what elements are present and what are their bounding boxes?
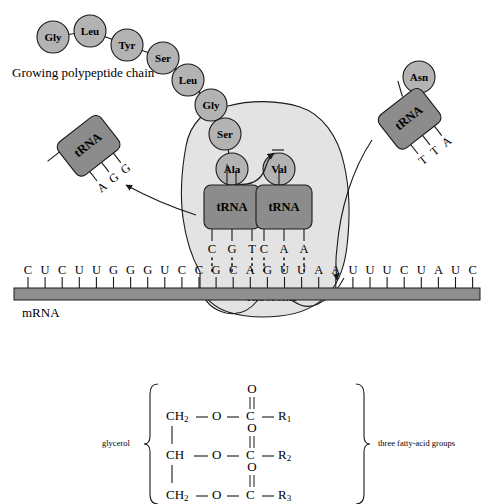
amino-acid-8[interactable]: Ala: [216, 153, 248, 185]
r-group: R1: [278, 408, 291, 424]
amino-acid-3[interactable]: Tyr: [111, 29, 143, 61]
mrna-bar: [14, 288, 480, 300]
mrna-base: U: [417, 263, 426, 277]
backbone-ch2: CH2: [166, 408, 189, 424]
p-site-anticodon-base: G: [227, 242, 236, 256]
a-site-anticodon-base: A: [279, 242, 288, 256]
amino-acid-label: Tyr: [119, 39, 136, 51]
exiting-trna-acceptor-arm: [48, 152, 60, 161]
biology-figure: Ribosome tRNA A G G Asn tRNA: [0, 0, 494, 504]
p-site-trna-label: tRNA: [216, 200, 247, 214]
mrna-base: U: [160, 263, 169, 277]
ester-oxygen: O: [212, 447, 221, 462]
growing-chain-label: Growing polypeptide chain: [12, 65, 155, 80]
mrna-base: A: [331, 263, 340, 277]
exiting-anticodon-base: G: [118, 160, 134, 177]
exiting-trna-group[interactable]: tRNA A G G: [43, 113, 196, 215]
carbonyl-oxygen: O: [247, 459, 256, 474]
carbonyl-oxygen-2: O: [247, 420, 256, 435]
mrna-base: G: [126, 263, 135, 277]
mrna-base: U: [297, 263, 306, 277]
exiting-anticodon-base: G: [106, 170, 122, 187]
figure-root: Ribosome tRNA A G G Asn tRNA: [0, 0, 494, 504]
a-site-anticodon-base: A: [299, 242, 308, 256]
incoming-trna-leg: [423, 135, 430, 144]
mrna-base: A: [314, 263, 323, 277]
triglyceride-diagram: glycerol three fatty-acid groups O CH2 O…: [102, 381, 455, 504]
mrna-base: U: [280, 263, 289, 277]
mrna-base: U: [92, 263, 101, 277]
backbone-ch2: CH2: [166, 487, 189, 503]
amino-acid-5[interactable]: Leu: [172, 64, 204, 96]
mrna-base: U: [383, 263, 392, 277]
amino-acid-label: Leu: [179, 74, 197, 86]
backbone-ch: CH: [166, 447, 184, 462]
amino-acid-2[interactable]: Leu: [74, 15, 106, 47]
mrna-base: A: [246, 263, 255, 277]
amino-acid-label: Ser: [155, 52, 171, 64]
amino-acid-6[interactable]: Gly: [195, 89, 227, 121]
mrna-base: C: [195, 263, 203, 277]
mrna-base: U: [365, 263, 374, 277]
p-site-anticodon-base: T: [248, 242, 256, 256]
ester-oxygen: O: [212, 408, 221, 423]
exiting-trna-leg: [90, 172, 97, 181]
incoming-trna-leg: [434, 126, 441, 135]
incoming-anticodon-base: A: [439, 133, 455, 150]
mrna-base: C: [24, 263, 32, 277]
carbonyl-carbon: C: [246, 487, 255, 502]
mrna-base: G: [109, 263, 118, 277]
exiting-trna-leg: [113, 153, 120, 162]
amino-acid-label: Gly: [202, 99, 220, 111]
carbonyl-oxygen: O: [247, 381, 256, 396]
amino-acid-label: Ser: [217, 128, 233, 140]
amino-acid-label: Ala: [224, 163, 241, 175]
a-site-trna-label: tRNA: [268, 200, 299, 214]
amino-acid-7[interactable]: Ser: [209, 118, 241, 150]
mrna-base: C: [58, 263, 66, 277]
mrna-base: C: [468, 263, 476, 277]
a-site-anticodon-base: C: [260, 242, 268, 256]
mrna-base: G: [212, 263, 221, 277]
amino-acid-1[interactable]: Gly: [37, 21, 69, 53]
fatty-acid-bracket: [356, 384, 370, 504]
fatty-acid-label: three fatty-acid groups: [378, 438, 455, 448]
r-group: R2: [278, 447, 291, 463]
exiting-trna-leg: [102, 162, 109, 171]
mrna-base-group: CUCUUGGGUCCGCAGUUAAUUUCUAUC: [24, 263, 477, 288]
mrna-base: C: [178, 263, 186, 277]
mrna-base: U: [348, 263, 357, 277]
incoming-trna-group[interactable]: Asn tRNA T T A: [336, 61, 460, 280]
mrna-label: mRNA: [22, 305, 60, 320]
mrna-base: G: [143, 263, 152, 277]
mrna-base: U: [75, 263, 84, 277]
triglyceride-row-1: O CH2 O C R1: [166, 381, 291, 444]
triglyceride-row-3: O CH2 O C R3: [166, 459, 292, 503]
amino-acid-asn-label: Asn: [410, 71, 428, 83]
mrna-base: C: [229, 263, 237, 277]
incoming-anticodon-base: T: [416, 152, 431, 168]
glycerol-bracket: [144, 384, 158, 504]
amino-acid-label: Gly: [44, 31, 62, 43]
mrna-base: U: [451, 263, 460, 277]
mrna-base: C: [400, 263, 408, 277]
incoming-trna-leg: [411, 145, 418, 154]
p-site-anticodon-base: C: [208, 242, 216, 256]
glycerol-label: glycerol: [102, 438, 130, 448]
mrna-base: U: [41, 263, 50, 277]
ester-oxygen: O: [212, 487, 221, 502]
exiting-anticodon-base: A: [94, 179, 110, 196]
incoming-anticodon-base: T: [428, 143, 443, 159]
amino-acid-label: Leu: [81, 25, 99, 37]
mrna-base: A: [434, 263, 443, 277]
mrna-base: G: [263, 263, 272, 277]
r-group: R3: [278, 487, 292, 503]
